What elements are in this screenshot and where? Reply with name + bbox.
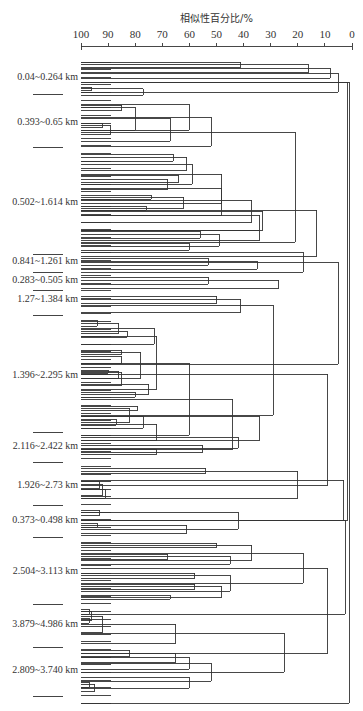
dendrogram-plot	[0, 0, 363, 711]
